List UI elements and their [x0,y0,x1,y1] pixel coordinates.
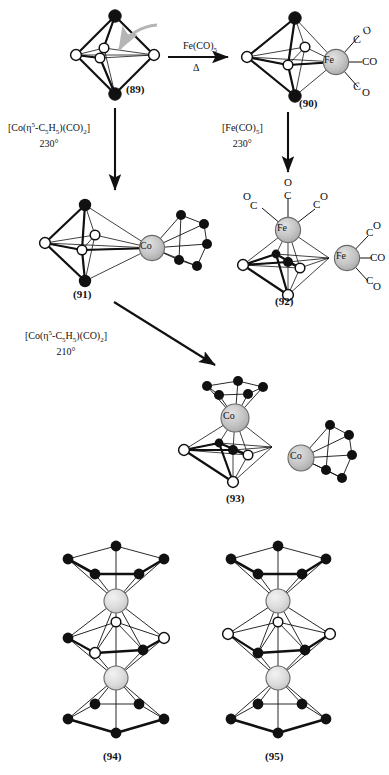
structure-92 [238,198,372,300]
reagent-label-91-93: [Co(η5-C5H5)(CO)2] 210° [25,330,107,357]
reagent-formula-89-90: Fe(CO)5 [183,40,217,55]
ligand-co-92-r3-o: O [373,280,381,292]
figure-canvas: Fe Co Fe Fe Co Co O C CO C O O C O C C O… [0,0,389,775]
ligand-co-90-mid: CO [362,55,377,67]
structure-90 [242,12,362,102]
ligand-co-92-top-c: C [284,189,291,201]
ligand-co-92-top-o: O [284,176,292,188]
metal-sphere-bottom-95 [266,666,290,690]
caption-92: (92) [275,295,293,307]
caption-95: (95) [265,750,283,762]
metal-sphere-top-95 [266,589,290,613]
ligand-co-92-left-c: C [250,199,257,211]
condition-90-92: 230° [222,138,263,149]
ligand-co-92-right-o: O [320,190,328,202]
caption-94: (94) [103,750,121,762]
caption-91: (91) [73,288,91,300]
reagent-formula-91-93: [Co(η5-C5H5)(CO)2] [25,330,107,345]
ligand-co-92-r1-o: O [373,219,381,231]
structure-94 [63,541,170,739]
structure-95 [223,541,336,739]
reagent-label-90-92: [Fe(CO)5] 230° [222,122,263,149]
ligand-co-90-lower-o: O [362,86,370,98]
reagent-formula-89-91: [Co(η5-C5H5)(CO)2] [8,122,90,137]
metal-sphere-bottom-94 [104,666,128,690]
reagent-formula-90-92: [Fe(CO)5] [222,122,263,137]
caption-90: (90) [299,97,317,109]
reagent-label-89-91: [Co(η5-C5H5)(CO)2] 230° [8,122,90,149]
metal-label-co-91: Co [140,240,152,251]
structure-89 [71,10,160,100]
arrow-91-to-93 [114,302,215,365]
ligand-co-92-r2: CO [370,251,385,263]
reagent-label-89-90: Fe(CO)5 [183,40,217,55]
metal-sphere-top-94 [104,589,128,613]
condition-label-89-90: Δ [193,62,199,73]
structure-91 [40,199,212,287]
structure-93 [179,376,357,487]
caption-93: (93) [226,492,244,504]
condition-91-93: 210° [25,346,107,357]
metal-label-co-93-top: Co [223,410,235,421]
metal-label-fe-90: Fe [324,54,334,65]
structures-svg [0,0,389,775]
caption-89: (89) [126,83,144,95]
condition-89-91: 230° [8,138,90,149]
metal-label-fe-92-top: Fe [277,222,287,233]
metal-label-co-93-right: Co [290,450,302,461]
metal-label-fe-92-right: Fe [336,250,346,261]
